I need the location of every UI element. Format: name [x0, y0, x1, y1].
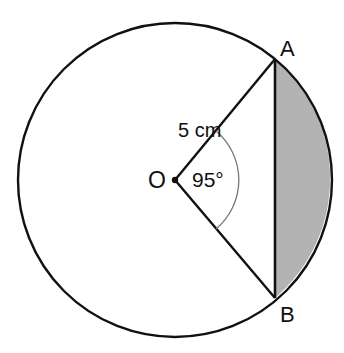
point-b-label: B — [280, 302, 295, 328]
center-label: O — [148, 167, 166, 194]
shaded-segment — [275, 59, 330, 298]
center-point — [172, 177, 178, 183]
radius-ob — [175, 180, 275, 298]
point-a-label: A — [280, 36, 295, 62]
radius-label: 5 cm — [178, 119, 221, 142]
angle-label: 95° — [192, 168, 224, 192]
